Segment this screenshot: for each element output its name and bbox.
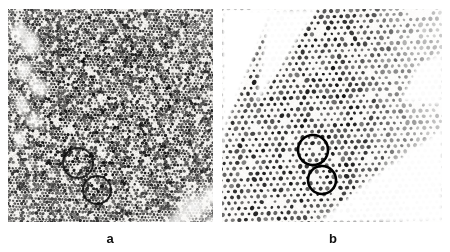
micrograph-panel-b [222, 9, 442, 222]
micrograph-figure: ab [0, 0, 450, 252]
panel-label-b: b [321, 232, 345, 245]
panel-label-a: a [98, 232, 122, 245]
lattice-texture-a [8, 9, 213, 222]
lattice-texture-b [222, 9, 442, 222]
micrograph-panel-a [8, 9, 213, 222]
